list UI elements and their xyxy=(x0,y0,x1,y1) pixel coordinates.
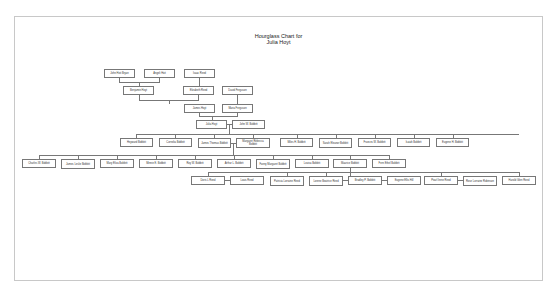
person-box[interactable]: Doris L Reed xyxy=(191,176,225,185)
person-box[interactable]: Isaac Reed xyxy=(184,69,215,78)
person-box[interactable]: Minnie E. Bobbitt xyxy=(139,159,173,168)
person-box[interactable]: Lorene Beatrice Reed xyxy=(309,176,343,186)
connector-line xyxy=(39,155,389,156)
connector-line xyxy=(199,78,200,86)
person-box[interactable]: James Leslie Bobbitt xyxy=(61,159,95,169)
person-box[interactable]: Arthur L. Bobbitt xyxy=(217,159,251,168)
person-box[interactable]: Heyward Bobbitt xyxy=(120,138,153,147)
person-box[interactable]: Elizabeth Reed xyxy=(183,86,214,95)
person-box[interactable]: John Hoit Bryan xyxy=(104,69,135,78)
person-box[interactable]: Fern Ethel Bobbitt xyxy=(372,159,406,168)
connector-line xyxy=(237,95,238,104)
person-box[interactable]: Roy W. Bobbitt xyxy=(178,159,212,168)
person-box[interactable]: Maurice Bobbitt xyxy=(333,159,367,168)
person-box[interactable]: Fanny Margaret Bobbitt xyxy=(256,159,290,169)
person-box[interactable]: Isaiah Bobbitt xyxy=(397,138,430,147)
chart-title-line2: Julia Hoyt xyxy=(0,39,557,45)
person-box[interactable]: Margaret Rebecca Bobbitt xyxy=(236,138,270,148)
spouse-box[interactable]: John W. Bobbitt xyxy=(232,120,265,129)
person-box[interactable]: Charles W. Bobbitt xyxy=(22,159,56,168)
connector-line xyxy=(169,100,170,104)
person-box[interactable]: James Thomas Bobbitt xyxy=(198,138,231,148)
chart-title: Hourglass Chart for Julia Hoyt xyxy=(0,33,557,45)
focus-person-box[interactable]: Julia Hoyt xyxy=(196,120,227,129)
person-box[interactable]: James Hoyt xyxy=(184,104,215,113)
person-box[interactable]: Maria Ferguson xyxy=(222,104,253,113)
connector-line xyxy=(208,172,519,173)
person-box[interactable]: Benjamin Hoyt xyxy=(123,86,154,95)
person-box[interactable]: Frances W. Bobbitt xyxy=(358,138,391,147)
person-box[interactable]: Eugene Ellis Hill xyxy=(387,176,421,185)
connector-line xyxy=(229,124,230,134)
person-box[interactable]: David Ferguson xyxy=(222,86,253,95)
person-box[interactable]: Eugene H. Bobbitt xyxy=(436,138,469,147)
person-box[interactable]: Angeli Hoit xyxy=(144,69,175,78)
page-frame xyxy=(14,16,543,281)
person-box[interactable]: Cornelia Bobbitt xyxy=(159,138,192,147)
person-box[interactable]: Rose Lorraine Robinson xyxy=(463,176,497,186)
person-box[interactable]: Harold Glen Reed xyxy=(502,176,536,185)
person-box[interactable]: Mary Eliza Bobbitt xyxy=(100,159,134,168)
person-box[interactable]: Louis Reed xyxy=(230,176,264,185)
connector-line xyxy=(199,116,238,117)
person-box[interactable]: Sarah Eleanor Bobbitt xyxy=(319,138,352,148)
person-box[interactable]: Miles H. Bobbitt xyxy=(280,138,313,147)
person-box[interactable]: Louisa Bobbitt xyxy=(295,159,329,168)
person-box[interactable]: Bradley P. Bobbitt xyxy=(348,176,382,185)
connector-line xyxy=(233,143,234,155)
person-box[interactable]: Pearl Irene Reed xyxy=(424,176,458,185)
connector-line xyxy=(136,134,519,135)
person-box[interactable]: Patricia Lorraine Reed xyxy=(270,176,304,186)
